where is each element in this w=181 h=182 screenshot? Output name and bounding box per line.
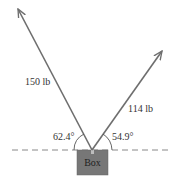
left-force-magnitude: 150 lb bbox=[25, 76, 50, 87]
right-force-magnitude: 114 lb bbox=[128, 103, 153, 114]
right-angle-label: 54.9° bbox=[112, 131, 134, 142]
attachment-point bbox=[91, 150, 94, 154]
box-label: Box bbox=[84, 157, 101, 168]
force-diagram: Box 150 lb 114 lb 62.4° 54.9° bbox=[0, 0, 181, 182]
left-angle-arc bbox=[74, 134, 84, 150]
right-angle-arc bbox=[103, 134, 112, 150]
left-angle-label: 62.4° bbox=[53, 131, 75, 142]
